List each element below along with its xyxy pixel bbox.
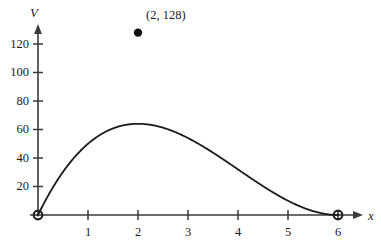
y-tick-label-40: 40 (2, 152, 29, 165)
curve-overlay (38, 124, 338, 215)
x-tick-label-5: 5 (278, 226, 298, 239)
y-tick-label-60: 60 (2, 123, 29, 136)
x-tick-label-4: 4 (228, 226, 248, 239)
x-tick-label-2: 2 (128, 226, 148, 239)
x-tick-label-6: 6 (328, 226, 348, 239)
x-tick-label-3: 3 (178, 226, 198, 239)
x-axis (30, 211, 363, 219)
maximum-point-marker (134, 28, 142, 36)
x-axis-label: x (368, 209, 374, 222)
y-tick-label-120: 120 (0, 38, 29, 51)
y-tick-label-20: 20 (2, 180, 29, 193)
graph-figure: 20 40 60 80 100 120 1 2 3 4 5 6 V x (2, … (0, 0, 381, 249)
maximum-point-annotation: (2, 128) (146, 9, 186, 22)
x-tick-label-1: 1 (78, 226, 98, 239)
y-axis-label: V (30, 6, 38, 19)
y-tick-label-80: 80 (2, 95, 29, 108)
y-tick-label-100: 100 (0, 66, 29, 79)
plot-canvas (0, 0, 381, 249)
